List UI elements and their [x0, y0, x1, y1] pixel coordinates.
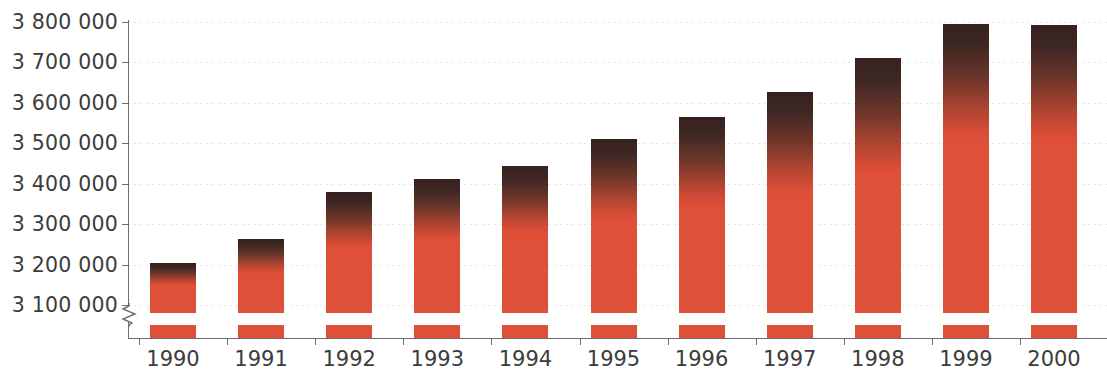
- x-axis-tick-mark: [756, 339, 757, 345]
- y-axis-tick-label: 3 100 000: [12, 295, 118, 316]
- y-axis-tick-mark: [122, 184, 129, 185]
- y-axis-tick-mark: [122, 22, 129, 23]
- bar-truncated-stub: [150, 325, 196, 338]
- y-axis-tick-label: 3 200 000: [12, 255, 118, 276]
- x-axis-tick-label: 1993: [397, 349, 477, 370]
- y-axis-tick-mark: [122, 265, 129, 266]
- bar-cap-gradient: [1031, 25, 1077, 143]
- x-axis-tick-label: 2000: [1014, 349, 1094, 370]
- bar: [414, 179, 460, 313]
- y-axis-tick-label: 3 500 000: [12, 133, 118, 154]
- bar: [150, 263, 196, 313]
- x-axis-tick-label: 1997: [750, 349, 830, 370]
- bar-truncated-stub: [679, 325, 725, 338]
- bar: [767, 92, 813, 313]
- bar-cap-gradient: [414, 179, 460, 242]
- bar-truncated-stub: [591, 325, 637, 338]
- x-axis-tick-label: 1992: [309, 349, 389, 370]
- bar-truncated-stub: [502, 325, 548, 338]
- axis-break-icon: [118, 303, 140, 327]
- bar-cap-gradient: [502, 166, 548, 235]
- x-axis-tick-mark: [668, 339, 669, 345]
- x-axis-tick-label: 1990: [133, 349, 213, 370]
- bar: [855, 58, 901, 313]
- bar: [679, 117, 725, 313]
- bar-truncated-stub: [855, 325, 901, 338]
- bar-cap-gradient: [943, 24, 989, 142]
- x-axis-tick-mark: [844, 339, 845, 345]
- bar-truncated-stub: [943, 325, 989, 338]
- x-axis-tick-mark: [1020, 339, 1021, 345]
- x-axis-tick-label: 1991: [221, 349, 301, 370]
- x-axis-tick-label: 1995: [574, 349, 654, 370]
- y-axis-tick-label: 3 300 000: [12, 214, 118, 235]
- x-axis-tick-label: 1999: [926, 349, 1006, 370]
- y-axis-tick-label: 3 600 000: [12, 93, 118, 114]
- bar-cap-gradient: [591, 139, 637, 221]
- bar-truncated-stub: [1031, 325, 1077, 338]
- bar-cap-gradient: [679, 117, 725, 209]
- plot-area: [128, 0, 1107, 338]
- x-axis-tick-mark: [315, 339, 316, 345]
- bar-cap-gradient: [855, 58, 901, 176]
- y-axis-tick-mark: [122, 143, 129, 144]
- y-axis-tick-mark: [122, 103, 129, 104]
- bar-truncated-stub: [326, 325, 372, 338]
- bar-truncated-stub: [414, 325, 460, 338]
- x-axis-line: [128, 338, 1107, 339]
- x-axis-tick-mark: [932, 339, 933, 345]
- y-axis-tick-mark: [122, 62, 129, 63]
- x-axis-tick-label: 1996: [662, 349, 742, 370]
- bar-chart: 3 800 0003 700 0003 600 0003 500 0003 40…: [0, 0, 1107, 379]
- bar: [591, 139, 637, 313]
- y-axis-tick-labels: 3 800 0003 700 0003 600 0003 500 0003 40…: [0, 0, 118, 338]
- bar-cap-gradient: [238, 239, 284, 274]
- x-axis-tick-mark: [139, 339, 140, 345]
- bar: [943, 24, 989, 313]
- bar: [502, 166, 548, 313]
- y-axis-tick-label: 3 800 000: [12, 12, 118, 33]
- x-axis-tick-mark: [403, 339, 404, 345]
- bar: [326, 192, 372, 313]
- bar-cap-gradient: [150, 263, 196, 287]
- x-axis-tick-label: 1994: [485, 349, 565, 370]
- y-axis-tick-label: 3 700 000: [12, 52, 118, 73]
- x-axis-tick-mark: [491, 339, 492, 345]
- y-axis-tick-mark: [122, 224, 129, 225]
- bar: [238, 239, 284, 313]
- bar-truncated-stub: [238, 325, 284, 338]
- y-axis-tick-label: 3 400 000: [12, 174, 118, 195]
- bar-cap-gradient: [326, 192, 372, 249]
- bar-cap-gradient: [767, 92, 813, 196]
- bar-truncated-stub: [767, 325, 813, 338]
- bar: [1031, 25, 1077, 313]
- x-axis-tick-label: 1998: [838, 349, 918, 370]
- x-axis-tick-mark: [227, 339, 228, 345]
- x-axis-tick-mark: [580, 339, 581, 345]
